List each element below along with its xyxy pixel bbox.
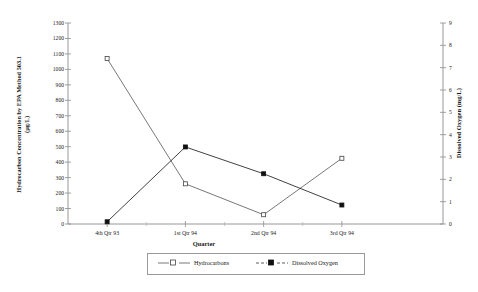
legend: Hydrocarbons Dissolved Oxygen: [147, 253, 365, 275]
data-point-marker: [262, 213, 266, 217]
data-point-marker: [340, 156, 344, 160]
series-line-1: [264, 158, 342, 214]
chart-container: Hydrocarbon Concentration by EPA Method …: [0, 0, 478, 292]
data-point-marker: [262, 172, 266, 176]
series-line-2: [107, 147, 185, 222]
x-axis-title-text: Quarter: [193, 240, 215, 247]
series-line-2: [264, 174, 342, 205]
x-axis-title: Quarter: [0, 240, 478, 247]
legend-label-hydrocarbons: Hydrocarbons: [194, 258, 229, 268]
data-point-marker: [183, 182, 187, 186]
series-line-1: [185, 184, 263, 215]
legend-marker-filled-square-icon: [256, 258, 288, 268]
legend-marker-open-square-icon: [158, 258, 190, 268]
legend-item-dissolved-oxygen: Dissolved Oxygen: [256, 258, 338, 268]
series-line-1: [107, 59, 185, 184]
data-point-marker: [183, 145, 187, 149]
data-point-marker: [105, 220, 109, 224]
data-point-marker: [105, 57, 109, 61]
legend-item-hydrocarbons: Hydrocarbons: [158, 258, 229, 268]
data-point-marker: [340, 203, 344, 207]
series-line-2: [185, 147, 263, 174]
chart-svg: [0, 0, 478, 292]
legend-label-dissolved-oxygen: Dissolved Oxygen: [292, 258, 338, 268]
